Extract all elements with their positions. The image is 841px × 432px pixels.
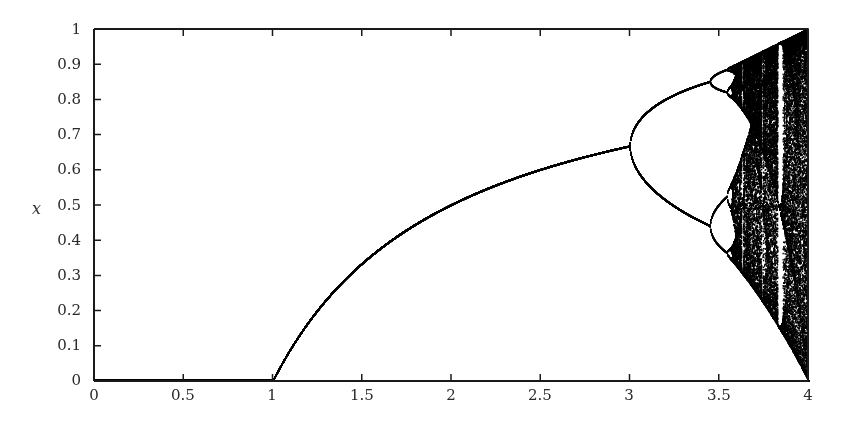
plot-area [0, 0, 841, 432]
y-axis-title: x [32, 199, 41, 218]
y-tick-label: 0.6 [41, 160, 81, 178]
x-tick-label: 3 [609, 386, 649, 404]
y-tick-label: 0.5 [41, 196, 81, 214]
y-tick-label: 1 [41, 20, 81, 38]
x-tick-label: 4 [788, 386, 828, 404]
y-tick-label: 0.2 [41, 301, 81, 319]
x-tick-label: 2 [431, 386, 471, 404]
bifurcation-figure: x 1 0.9 0.8 0.7 0.6 0.5 0.4 0.3 0.2 0.1 … [0, 0, 841, 432]
x-tick-label: 2.5 [520, 386, 560, 404]
x-tick-label: 0.5 [163, 386, 203, 404]
x-tick-label: 0 [74, 386, 114, 404]
y-tick-label: 0.3 [41, 266, 81, 284]
y-tick-label: 0.9 [41, 55, 81, 73]
x-tick-label: 1.5 [342, 386, 382, 404]
x-tick-label: 1 [252, 386, 292, 404]
y-tick-label: 0.8 [41, 90, 81, 108]
y-tick-label: 0.1 [41, 336, 81, 354]
y-tick-label: 0.7 [41, 125, 81, 143]
x-tick-label: 3.5 [699, 386, 739, 404]
y-tick-label: 0.4 [41, 231, 81, 249]
